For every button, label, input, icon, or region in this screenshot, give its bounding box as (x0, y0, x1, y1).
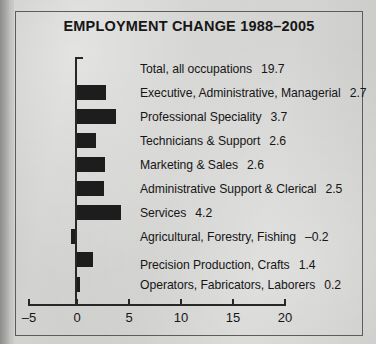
row-label: Agricultural, Forestry, Fishing–0.2 (140, 230, 329, 244)
bar (77, 277, 80, 292)
row-label: Administrative Support & Clerical2.5 (140, 182, 342, 196)
x-axis-tick-label: –5 (22, 310, 36, 325)
row-label-text: Agricultural, Forestry, Fishing (140, 230, 296, 244)
bar (71, 229, 75, 244)
x-axis-tick-mark (232, 299, 234, 306)
x-axis-tick-mark (128, 299, 130, 306)
row-label: Executive, Administrative, Managerial2.7 (140, 86, 367, 100)
row-label-text: Marketing & Sales (140, 158, 238, 172)
row-label-text: Executive, Administrative, Managerial (140, 86, 341, 100)
row-label: Marketing & Sales2.6 (140, 158, 264, 172)
x-axis-tick-mark (28, 299, 30, 306)
row-label-text: Total, all occupations (140, 62, 252, 76)
x-axis-tick-label: 20 (278, 310, 292, 325)
row-label-text: Operators, Fabricators, Laborers (140, 278, 315, 292)
row-label: Precision Production, Crafts1.4 (140, 258, 315, 272)
row-value-text: 4.2 (195, 206, 212, 220)
row-value-text: 2.7 (350, 86, 367, 100)
row-value-text: 0.2 (324, 278, 341, 292)
bar (77, 157, 105, 172)
x-axis-tick-mark (76, 299, 78, 306)
bar (77, 181, 104, 196)
x-axis-tick-label: 10 (174, 310, 188, 325)
row-label-text: Administrative Support & Clerical (140, 182, 317, 196)
x-axis-tick-label: 5 (125, 310, 132, 325)
row-label: Technicians & Support2.6 (140, 134, 286, 148)
x-axis-tick-label: 15 (226, 310, 240, 325)
bar (77, 252, 93, 267)
row-label: Professional Speciality3.7 (140, 110, 287, 124)
row-label: Services4.2 (140, 206, 212, 220)
row-value-text: 3.7 (270, 110, 287, 124)
bar (77, 85, 106, 100)
x-axis-line (28, 304, 285, 306)
row-value-text: 2.5 (326, 182, 343, 196)
bar (77, 205, 121, 220)
bar (77, 133, 96, 148)
bar-chart-plot-area: Total, all occupations19.7Executive, Adm… (0, 0, 376, 344)
row-value-text: 2.6 (247, 158, 264, 172)
bar (77, 109, 116, 124)
row-label-text: Technicians & Support (140, 134, 260, 148)
zero-axis-top-cap (75, 57, 83, 59)
row-value-text: –0.2 (305, 230, 329, 244)
row-label: Operators, Fabricators, Laborers0.2 (140, 278, 341, 292)
row-label-text: Professional Speciality (140, 110, 261, 124)
row-value-text: 19.7 (261, 62, 285, 76)
x-axis-tick-mark (284, 299, 286, 306)
x-axis-tick-label: 0 (73, 310, 80, 325)
row-value-text: 1.4 (299, 258, 316, 272)
x-axis-tick-mark (180, 299, 182, 306)
row-label-text: Services (140, 206, 186, 220)
row-label: Total, all occupations19.7 (140, 62, 285, 76)
row-label-text: Precision Production, Crafts (140, 258, 290, 272)
row-value-text: 2.6 (269, 134, 286, 148)
